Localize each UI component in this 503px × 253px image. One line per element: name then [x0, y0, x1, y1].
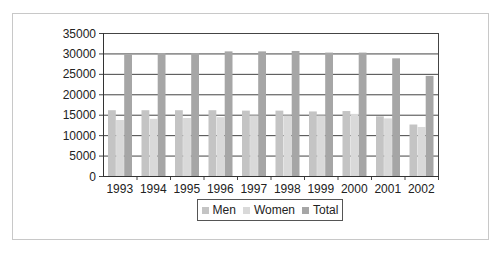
x-tick-label: 1996 — [207, 182, 234, 196]
y-tick-label: 10000 — [63, 129, 97, 143]
bar-women-1994 — [150, 119, 158, 176]
legend-label: Total — [313, 203, 338, 217]
bar-men-1995 — [175, 110, 183, 176]
legend-label: Women — [254, 203, 295, 217]
bar-total-1993 — [124, 54, 132, 176]
bar-women-1996 — [217, 117, 225, 176]
x-axis-labels: 1993199419951996199719981999200020012002 — [106, 182, 435, 196]
bar-total-1999 — [325, 53, 333, 176]
bar-total-1994 — [158, 53, 166, 176]
bar-men-1994 — [142, 110, 150, 176]
bar-men-1993 — [108, 110, 116, 176]
bar-men-1996 — [209, 110, 217, 176]
y-tick-label: 35000 — [63, 27, 97, 41]
bar-total-2002 — [426, 76, 434, 176]
bar-total-1997 — [258, 51, 266, 176]
y-tick-label: 0 — [89, 170, 96, 184]
legend-label: Men — [213, 203, 236, 217]
x-tick-label: 2000 — [341, 182, 368, 196]
legend-item-women: Women — [243, 203, 295, 217]
legend: Men Women Total — [197, 199, 343, 221]
y-tick-label: 25000 — [63, 67, 97, 81]
bar-women-1998 — [284, 116, 292, 176]
bar-men-2002 — [410, 125, 418, 176]
y-tick-label: 20000 — [63, 88, 97, 102]
women-swatch-icon — [243, 207, 250, 214]
total-swatch-icon — [302, 207, 309, 214]
bar-women-1993 — [116, 120, 124, 176]
bar-total-2001 — [392, 58, 400, 176]
bar-women-2001 — [384, 118, 392, 176]
bar-women-1999 — [317, 116, 325, 176]
y-tick-label: 15000 — [63, 108, 97, 122]
x-tick-label: 2001 — [374, 182, 401, 196]
x-tick-label: 1999 — [307, 182, 334, 196]
men-swatch-icon — [202, 207, 209, 214]
bar-men-1997 — [242, 111, 250, 176]
y-axis-labels: 05000100001500020000250003000035000 — [63, 27, 97, 184]
x-tick-label: 1995 — [173, 182, 200, 196]
bars — [108, 51, 434, 176]
x-tick-label: 1993 — [106, 182, 133, 196]
x-tick-label: 2002 — [408, 182, 435, 196]
bar-women-2000 — [351, 114, 359, 176]
bar-men-2001 — [376, 116, 384, 176]
bar-women-2002 — [418, 127, 426, 176]
legend-item-men: Men — [202, 203, 236, 217]
bar-women-1997 — [250, 116, 258, 176]
bar-total-1998 — [292, 51, 300, 176]
bar-total-1996 — [225, 51, 233, 176]
legend-item-total: Total — [302, 203, 338, 217]
bar-men-1998 — [276, 111, 284, 176]
bar-men-1999 — [309, 111, 317, 176]
bar-men-2000 — [343, 111, 351, 176]
x-tick-label: 1997 — [240, 182, 267, 196]
x-tick-label: 1998 — [274, 182, 301, 196]
y-tick-label: 30000 — [63, 47, 97, 61]
bar-total-2000 — [359, 53, 367, 176]
x-tick-label: 1994 — [140, 182, 167, 196]
bar-women-1995 — [183, 118, 191, 176]
y-tick-label: 5000 — [69, 149, 96, 163]
bar-total-1995 — [191, 53, 199, 176]
